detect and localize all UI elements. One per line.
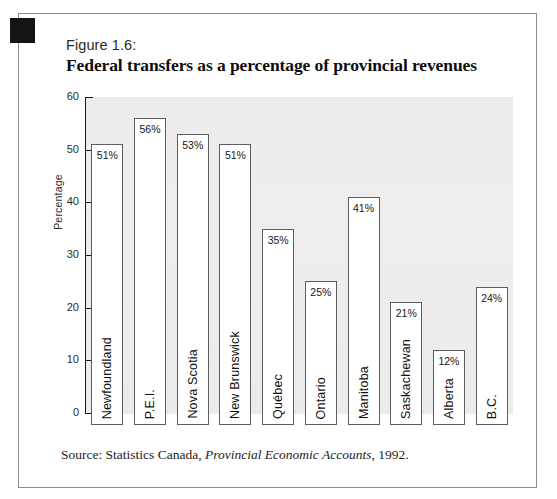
bar-value-label: 56%: [140, 123, 161, 135]
bars-layer: 51%Newfoundland56%P.E.I.53%Nova Scotia51…: [19, 14, 538, 489]
bar-category-label: Saskachewan: [399, 339, 413, 419]
bar-category-label: Québec: [271, 374, 285, 419]
bar-value-label: 51%: [97, 149, 118, 161]
bar: 21%Saskachewan: [390, 302, 422, 425]
bar-category-label: Manitoba: [357, 366, 371, 419]
decorative-marker-square: [10, 18, 35, 43]
source-note: Source: Statistics Canada, Provincial Ec…: [61, 447, 409, 463]
bar: 25%Ontario: [305, 281, 337, 425]
bar: 12%Alberta: [433, 350, 465, 425]
figure-frame: Figure 1.6: Federal transfers as a perce…: [18, 13, 537, 488]
bar: 24%B.C.: [476, 287, 508, 425]
bar-value-label: 25%: [310, 286, 331, 298]
bar: 41%Manitoba: [348, 197, 380, 425]
bar: 51%Newfoundland: [91, 144, 123, 425]
bar-category-label: Nova Scotia: [186, 349, 200, 419]
source-publication-title: Provincial Economic Accounts: [205, 447, 371, 462]
bar-value-label: 51%: [225, 149, 246, 161]
bar: 53%Nova Scotia: [177, 134, 209, 425]
bar-value-label: 53%: [182, 139, 203, 151]
source-prefix: Source: Statistics Canada,: [61, 447, 202, 462]
bar-value-label: 35%: [268, 234, 289, 246]
source-suffix: , 1992.: [371, 447, 408, 462]
bar-category-label: New Brunswick: [228, 331, 242, 419]
bar-category-label: Alberta: [442, 378, 456, 419]
bar-value-label: 41%: [353, 202, 374, 214]
bar-chart: Percentage 0102030405060 51%Newfoundland…: [19, 14, 538, 489]
bar: 51%New Brunswick: [219, 144, 251, 425]
bar: 35%Québec: [262, 229, 294, 425]
bar-category-label: Newfoundland: [100, 337, 114, 419]
bar-category-label: Ontario: [314, 377, 328, 419]
bar: 56%P.E.I.: [134, 118, 166, 425]
bar-value-label: 12%: [438, 355, 459, 367]
bar-value-label: 24%: [481, 292, 502, 304]
bar-value-label: 21%: [396, 307, 417, 319]
bar-category-label: B.C.: [485, 394, 499, 419]
bar-category-label: P.E.I.: [143, 389, 157, 419]
